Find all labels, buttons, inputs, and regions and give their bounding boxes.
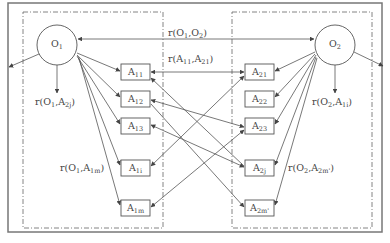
attribute-node-a1i: A1i: [121, 160, 150, 176]
attribute-node-a21: A21: [245, 64, 274, 80]
edge-o1-a11: [77, 53, 120, 71]
attribute-node-a2mp: A2m': [245, 200, 274, 216]
relation-label-r-o1-a2j: r(O1,A2j): [35, 96, 75, 109]
edge-o1-a1i: [78, 57, 120, 165]
attribute-node-a11: A11: [121, 64, 150, 80]
relation-label-r-o2-a2m: r(O2,A2m'): [288, 162, 334, 175]
edge-o2-a23: [275, 55, 316, 124]
edge-o2-a21: [275, 52, 315, 71]
relation-label-r-o2-a1i: r(O2,A1i): [312, 96, 352, 109]
edge-o1-out-left: [9, 54, 39, 67]
relation-label-r-o1-a1m: r(O1,A1m): [60, 162, 104, 175]
edge-o2-a2m: [275, 58, 317, 205]
relation-label-r-o1-o2: r(O1,O2): [168, 27, 207, 40]
object-node-o2: O2: [315, 25, 355, 65]
attribute-node-a1m: A1m: [121, 200, 150, 216]
attributes-layer: A11A12A13A1iA1mA21A22A23A2jA2m': [121, 64, 274, 216]
relation-label-r-a11-a21: r(A11,A21): [168, 53, 213, 66]
edge-a1m-a23: [151, 130, 244, 207]
edge-o1-a1m: [79, 58, 120, 205]
attribute-node-a12: A12: [121, 91, 150, 107]
edge-o2-out-right: [354, 52, 383, 66]
attribute-node-a23: A23: [245, 118, 274, 134]
attribute-node-a2j: A2j: [245, 160, 274, 176]
object-node-o1: O1: [37, 25, 77, 65]
attribute-node-a13: A13: [121, 118, 150, 134]
edge-a12-a2m: [151, 104, 244, 207]
edge-a13-a2j: [151, 125, 244, 167]
edge-a12-a23: [151, 100, 244, 127]
edge-o2-a2j: [275, 57, 316, 165]
relation-diagram: O1O2 A11A12A13A1iA1mA21A22A23A2jA2m' r(O…: [0, 0, 390, 243]
edge-o1-a13: [77, 56, 120, 124]
attribute-node-a22: A22: [245, 91, 274, 107]
